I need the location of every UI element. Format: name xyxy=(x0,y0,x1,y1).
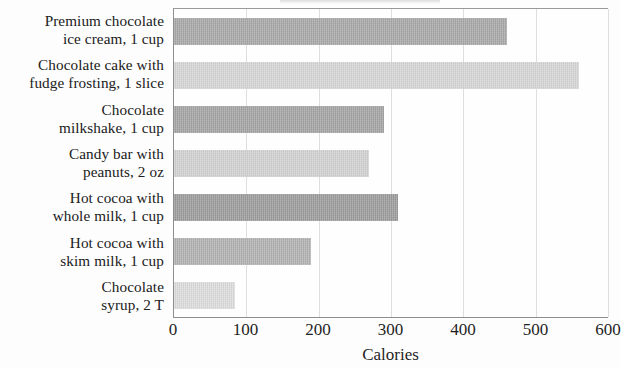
category-label-line1: Chocolate xyxy=(102,278,164,296)
bar-row xyxy=(174,9,608,53)
bar xyxy=(174,106,384,133)
category-label-line1: Premium chocolate xyxy=(45,12,164,30)
category-label-line1: Chocolate cake with xyxy=(38,56,164,74)
x-tick-label: 300 xyxy=(378,320,404,340)
bar xyxy=(174,62,579,89)
bar xyxy=(174,194,398,221)
x-axis-tick-labels: 0100200300400500600 xyxy=(173,320,608,344)
category-label-line1: Candy bar with xyxy=(69,145,164,163)
category-label-line1: Chocolate xyxy=(102,101,164,119)
x-tick-label: 500 xyxy=(523,320,549,340)
x-tick-label: 200 xyxy=(305,320,331,340)
category-label-line1: Hot cocoa with xyxy=(70,189,164,207)
category-label: Hot cocoa withwhole milk, 1 cup xyxy=(0,185,170,229)
bar-row xyxy=(174,141,608,185)
category-label-line2: peanuts, 2 oz xyxy=(83,163,164,181)
category-label: Premium chocolateice cream, 1 cup xyxy=(0,8,170,52)
category-label-line2: ice cream, 1 cup xyxy=(63,30,164,48)
category-label: Candy bar withpeanuts, 2 oz xyxy=(0,141,170,185)
bar-row xyxy=(174,185,608,229)
bar-row xyxy=(174,53,608,97)
category-label: Chocolatesyrup, 2 T xyxy=(0,274,170,318)
category-label: Chocolatemilkshake, 1 cup xyxy=(0,97,170,141)
bar xyxy=(174,18,507,45)
bar-row xyxy=(174,97,608,141)
bar xyxy=(174,238,311,265)
bars-layer xyxy=(174,9,608,317)
category-axis-labels: Premium chocolateice cream, 1 cupChocola… xyxy=(0,8,170,318)
bar-row xyxy=(174,229,608,273)
category-label-line2: milkshake, 1 cup xyxy=(59,119,164,137)
category-label-line2: syrup, 2 T xyxy=(101,296,164,314)
cropped-title-artifact xyxy=(280,0,440,4)
gridline xyxy=(608,9,609,317)
category-label: Hot cocoa withskim milk, 1 cup xyxy=(0,229,170,273)
x-axis-title: Calories xyxy=(173,345,608,365)
category-label-line1: Hot cocoa with xyxy=(70,234,164,252)
category-label-line2: fudge frosting, 1 slice xyxy=(29,74,164,92)
x-tick-label: 400 xyxy=(450,320,476,340)
plot-area xyxy=(173,8,608,318)
bar xyxy=(174,150,369,177)
category-label-line2: whole milk, 1 cup xyxy=(53,207,164,225)
x-tick-label: 100 xyxy=(233,320,259,340)
bar xyxy=(174,282,235,309)
bar-row xyxy=(174,273,608,317)
category-label-line2: skim milk, 1 cup xyxy=(60,252,164,270)
category-label: Chocolate cake withfudge frosting, 1 sli… xyxy=(0,52,170,96)
x-tick-label: 0 xyxy=(169,320,178,340)
x-tick-label: 600 xyxy=(595,320,621,340)
